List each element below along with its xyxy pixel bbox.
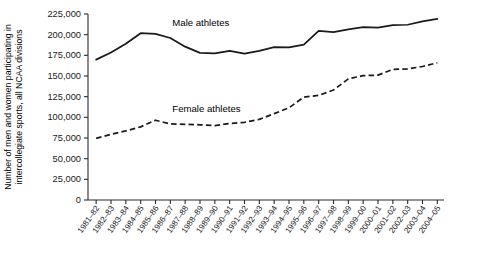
y-tick-label: 125,000 [47, 92, 81, 102]
y-tick-label: 175,000 [47, 50, 81, 60]
y-tick-label: 200,000 [47, 30, 81, 40]
y-axis-ticks: 025,00050,00075,000100,000125,000150,000… [47, 9, 88, 205]
x-axis-ticks: 1981–821982–831983–841984–851985–861986–… [76, 200, 443, 235]
line-chart: Number of men and women participating in… [0, 0, 481, 258]
series-labels-group: Male athletesFemale athletes [172, 17, 240, 113]
y-tick-label: 25,000 [53, 174, 81, 184]
y-tick-label: 0 [76, 195, 81, 205]
data-series-group [96, 19, 437, 138]
series-label-female-athletes: Female athletes [172, 103, 240, 114]
y-axis-title-line: Number of men and women participating in [3, 24, 13, 190]
y-tick-label: 225,000 [47, 9, 81, 19]
y-axis-title: Number of men and women participating in… [3, 24, 24, 190]
series-line-male-athletes [96, 19, 437, 60]
chart-figure: Number of men and women participating in… [0, 0, 481, 258]
series-line-female-athletes [96, 63, 437, 139]
y-tick-label: 150,000 [47, 71, 81, 81]
y-axis-title-line: intercollegiate sports, all NCAA divisio… [14, 29, 24, 185]
y-tick-label: 75,000 [53, 133, 81, 143]
series-label-male-athletes: Male athletes [172, 17, 229, 28]
y-tick-label: 100,000 [47, 112, 81, 122]
y-tick-label: 50,000 [53, 154, 81, 164]
